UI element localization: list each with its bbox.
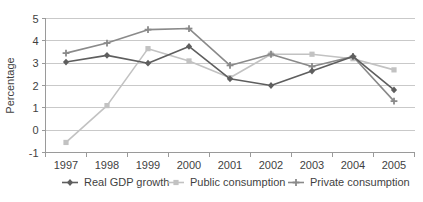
legend-label: Real GDP growth	[84, 176, 169, 188]
data-point	[186, 58, 191, 63]
gridlines	[46, 19, 415, 153]
series-private-consumption	[63, 25, 398, 104]
x-tick-label: 2003	[300, 159, 324, 171]
data-point	[268, 82, 274, 89]
data-point	[145, 26, 152, 33]
data-point	[145, 46, 150, 51]
legend-item-private-consumption[interactable]: Private consumption	[288, 176, 410, 188]
y-tick-label: 3	[32, 57, 38, 69]
legend-swatch-marker	[293, 179, 300, 186]
y-axis-tick-labels: -1012345	[29, 13, 39, 159]
data-point	[145, 60, 151, 67]
legend-swatch-marker	[67, 179, 73, 186]
x-tick-label: 2005	[382, 159, 406, 171]
y-axis-title: Percentage	[4, 57, 16, 113]
x-tick-label: 1998	[95, 159, 119, 171]
y-tick-label: -1	[29, 147, 39, 159]
x-tick-label: 2004	[341, 159, 365, 171]
legend-item-real-gdp-growth[interactable]: Real GDP growth	[62, 176, 169, 188]
y-tick-label: 0	[32, 124, 38, 136]
data-point	[309, 68, 315, 75]
x-tick-label: 1999	[136, 159, 160, 171]
x-axis-tick-labels: 199719981999200020012002200320042005	[54, 159, 406, 171]
y-tick-label: 4	[32, 35, 38, 47]
x-tick-label: 2001	[218, 159, 242, 171]
data-point	[63, 50, 70, 57]
line-chart: -1012345 1997199819992000200120022003200…	[0, 0, 423, 202]
x-tick-label: 1997	[54, 159, 78, 171]
y-axis	[42, 19, 46, 153]
legend-swatch-marker	[173, 180, 178, 185]
y-axis-title-text: Percentage	[4, 57, 16, 113]
y-tick-label: 1	[32, 102, 38, 114]
legend-item-public-consumption[interactable]: Public consumption	[168, 176, 285, 188]
data-point	[309, 52, 314, 57]
chart-legend: Real GDP growthPublic consumptionPrivate…	[62, 176, 410, 188]
chart-canvas: -1012345 1997199819992000200120022003200…	[0, 0, 423, 202]
data-point	[63, 140, 68, 145]
data-point	[391, 67, 396, 72]
data-point	[104, 103, 109, 108]
data-point	[63, 59, 69, 66]
legend-label: Private consumption	[310, 176, 410, 188]
y-tick-label: 5	[32, 13, 38, 25]
x-axis	[46, 153, 415, 157]
data-point	[104, 52, 110, 59]
x-tick-label: 2000	[177, 159, 201, 171]
legend-label: Public consumption	[190, 176, 285, 188]
y-tick-label: 2	[32, 80, 38, 92]
x-tick-label: 2002	[259, 159, 283, 171]
